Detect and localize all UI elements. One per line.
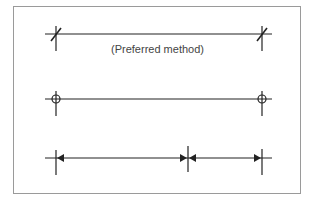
arrowhead-mid-right-icon	[189, 154, 196, 162]
dimension-diagram	[0, 0, 315, 203]
arrowhead-left-icon	[57, 154, 64, 162]
arrowhead-right-icon	[254, 154, 261, 162]
row-circle-terminators	[45, 91, 272, 116]
arrowhead-mid-left-icon	[180, 154, 187, 162]
caption-preferred-method: (Preferred method)	[0, 43, 315, 55]
row-arrow-terminators	[45, 146, 272, 175]
